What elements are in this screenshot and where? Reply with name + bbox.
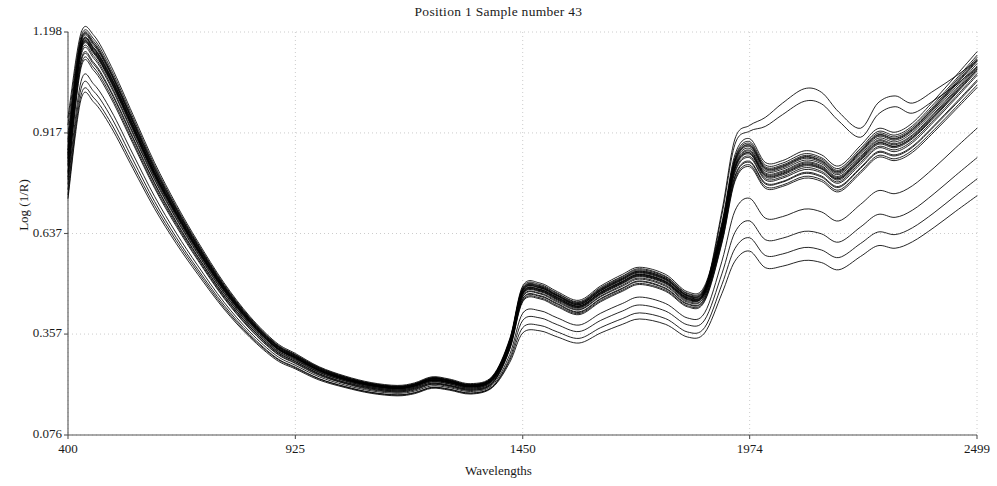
spectra-svg [0, 0, 997, 486]
spectrum-trace [68, 43, 977, 389]
spectrum-trace [68, 47, 977, 390]
y-tick-label: 0.076 [6, 426, 62, 442]
gridlines [68, 32, 977, 435]
chart-root: Position 1 Sample number 43 Log (1/R) Wa… [0, 0, 997, 486]
y-tick-label: 0.917 [6, 124, 62, 140]
y-tick-label: 0.637 [6, 225, 62, 241]
spectrum-trace [68, 38, 977, 388]
x-tick-label: 400 [33, 441, 103, 457]
plot-area [0, 0, 997, 486]
y-tick-label: 1.198 [6, 23, 62, 39]
x-tick-label: 1974 [715, 441, 785, 457]
x-tick-label: 2499 [942, 441, 997, 457]
spectrum-trace [68, 92, 977, 396]
spectrum-trace [68, 59, 977, 392]
spectrum-trace [68, 52, 977, 391]
x-tick-label: 925 [260, 441, 330, 457]
tick-marks [64, 32, 977, 439]
spectrum-trace [68, 39, 977, 388]
y-tick-label: 0.357 [6, 325, 62, 341]
x-tick-label: 1450 [488, 441, 558, 457]
